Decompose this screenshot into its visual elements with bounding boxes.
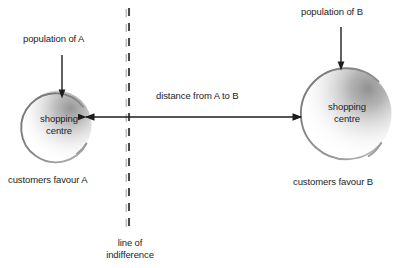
label-line-of-indifference: line of indifference [90,237,170,260]
label-shopping-centre-b-line1: shopping [317,101,377,113]
line-of-indifference-group [126,8,129,232]
label-distance-from-a-to-b: distance from A to B [156,90,239,102]
distance-arrow-group [85,113,302,121]
population-b-arrow-group [338,27,345,71]
label-customers-favour-a: customers favour A [8,174,88,186]
label-shopping-centre-a-line1: shopping [31,113,87,125]
diagram-canvas: population of A population of B distance… [0,0,394,268]
label-line-of-indifference-line2: indifference [90,249,170,261]
label-line-of-indifference-line1: line of [90,237,170,249]
label-shopping-centre-b: shopping centre [317,101,377,124]
label-customers-favour-b: customers favour B [293,176,373,188]
label-population-a: population of A [23,33,84,45]
label-shopping-centre-a-line2: centre [31,125,87,137]
label-population-b: population of B [301,6,363,18]
label-shopping-centre-b-line2: centre [317,113,377,125]
label-shopping-centre-a: shopping centre [31,113,87,136]
population-a-arrow-group [59,55,66,99]
